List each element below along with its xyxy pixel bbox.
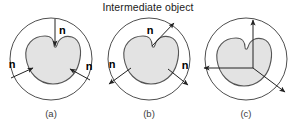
caption-b: (b) — [100, 108, 198, 119]
normal-label-top-a: n — [59, 24, 66, 36]
panel-b: n n n — [100, 14, 198, 109]
intermediate-object-blob-c — [217, 38, 272, 86]
intermediate-object-blob-b — [124, 36, 179, 84]
normal-label-right-a: n — [86, 60, 93, 72]
normal-label-right-b: n — [182, 59, 189, 71]
panel-a: n n n — [2, 14, 100, 109]
intermediate-object-blob-a — [26, 36, 81, 84]
normal-vector-right-b — [168, 69, 188, 85]
caption-row: (a) (b) (c) — [0, 108, 296, 126]
normal-label-left-a: n — [9, 58, 16, 70]
normal-vector-left-b — [109, 68, 131, 84]
figure-title: Intermediate object — [0, 1, 296, 13]
panel-c — [197, 14, 295, 109]
caption-a: (a) — [2, 108, 100, 119]
normal-label-left-b: n — [109, 58, 116, 70]
caption-c: (c) — [197, 108, 295, 119]
normal-label-top-b: n — [147, 24, 154, 36]
figure-container: Intermediate object n n n n n n — [0, 0, 296, 128]
